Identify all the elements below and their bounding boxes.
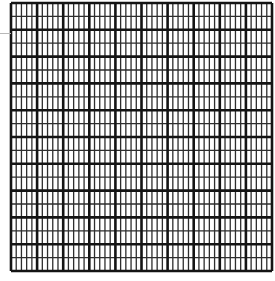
grid-canvas bbox=[0, 0, 275, 281]
guide-line bbox=[0, 33, 11, 34]
grid bbox=[0, 0, 275, 281]
